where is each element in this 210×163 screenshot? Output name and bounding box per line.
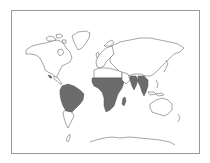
central-america-shaded — [48, 75, 52, 78]
philippines — [156, 80, 158, 88]
greenland — [72, 31, 90, 50]
south-america-tropics — [60, 84, 84, 112]
scandinavia — [104, 40, 114, 46]
sub-saharan-africa — [92, 78, 124, 112]
central-america — [54, 76, 62, 84]
australia — [150, 98, 172, 116]
india — [130, 76, 138, 90]
madagascar — [122, 97, 126, 106]
southeast-asia — [138, 76, 148, 96]
asia — [110, 38, 184, 76]
antarctic-peninsula — [66, 134, 70, 142]
north-america — [26, 40, 72, 78]
new-zealand — [178, 114, 180, 122]
southern-south-america — [63, 110, 74, 128]
antarctica — [90, 137, 175, 145]
indonesia — [148, 92, 164, 96]
world-map — [0, 0, 210, 163]
